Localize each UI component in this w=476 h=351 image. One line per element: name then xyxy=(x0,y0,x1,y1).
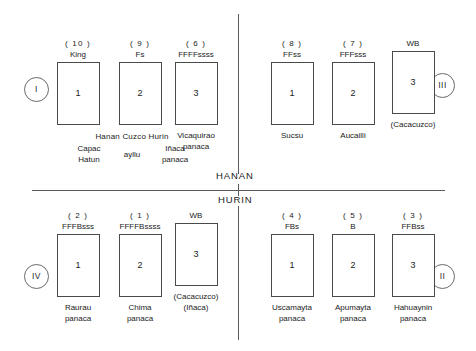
panaca-header: WB xyxy=(158,210,234,221)
panaca-box: 2 xyxy=(119,234,162,297)
panaca-code: WB xyxy=(375,38,451,49)
panaca-cell: WB 3 (Cacacuzco) xyxy=(375,38,451,130)
panaca-box: 1 xyxy=(57,234,100,297)
panaca-caption: Aucailli xyxy=(315,130,391,141)
panaca-rank: ( 3 ) xyxy=(375,210,451,221)
ayllu-caption-right: Iñaca panaca xyxy=(152,143,198,165)
panaca-header: ( 3 ) FFBss xyxy=(375,210,451,232)
kinship-quadrant-diagram: HANAN HURIN I III IV II ( 10 ) King 1 ( … xyxy=(0,0,476,351)
panaca-code: FFFFssss xyxy=(158,49,234,60)
divider-label-hanan: HANAN xyxy=(216,170,254,181)
panaca-box: 1 xyxy=(271,62,314,125)
panaca-box: 3 xyxy=(175,62,218,125)
vertical-divider-line-lower xyxy=(238,206,239,340)
panaca-box: 3 xyxy=(392,51,435,114)
panaca-cell: ( 3 ) FFBss 3 Hahuaynin panaca xyxy=(375,210,451,324)
vertical-divider-line-upper xyxy=(238,14,239,174)
panaca-box: 3 xyxy=(175,223,218,286)
panaca-caption: (Cacacuzco) xyxy=(375,119,451,130)
panaca-header: WB xyxy=(375,38,451,49)
ayllu-caption-row2: Capac Hatun ayllu Iñaca panaca xyxy=(52,143,212,165)
ayllu-caption-middle: ayllu xyxy=(112,149,152,160)
panaca-code: WB xyxy=(158,210,234,221)
panaca-cell: WB 3 (Cacacuzco) (Iñaca) xyxy=(158,210,234,313)
panaca-header: ( 6 ) FFFFssss xyxy=(158,38,234,60)
panaca-caption: (Cacacuzco) (Iñaca) xyxy=(158,291,234,313)
ayllu-caption-left: Capac Hatun xyxy=(66,143,112,165)
panaca-box: 1 xyxy=(57,62,100,125)
ayllu-caption-row1: Hanan Cuzco Hurin xyxy=(52,131,212,142)
panaca-caption: Hahuaynin panaca xyxy=(375,302,451,324)
panaca-box: 2 xyxy=(332,62,375,125)
panaca-box: 2 xyxy=(119,62,162,125)
panaca-code: FFBss xyxy=(375,221,451,232)
panaca-box: 3 xyxy=(392,234,435,297)
hanan-cuzco-hurin-ayllu-caption: Hanan Cuzco Hurin Capac Hatun ayllu Iñac… xyxy=(52,131,212,165)
panaca-rank: ( 6 ) xyxy=(158,38,234,49)
panaca-box: 2 xyxy=(332,234,375,297)
panaca-box: 1 xyxy=(271,234,314,297)
divider-label-hurin: HURIN xyxy=(218,194,253,205)
